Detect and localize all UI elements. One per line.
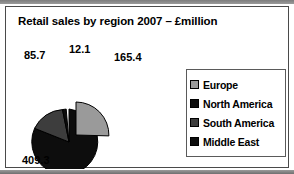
pie-data-label-europe: 165.4 bbox=[114, 51, 142, 63]
legend-item-middle-east[interactable]: Middle East bbox=[190, 132, 285, 151]
legend-swatch-europe bbox=[190, 80, 199, 89]
legend-label-south-america: South America bbox=[203, 117, 274, 129]
legend-label-north-america: North America bbox=[203, 98, 272, 110]
scan-band-top bbox=[0, 0, 294, 4]
chart-title: Retail sales by region 2007 – £million bbox=[18, 15, 217, 27]
legend-swatch-south-america bbox=[190, 118, 199, 127]
legend-item-north-america[interactable]: North America bbox=[190, 94, 285, 113]
legend-swatch-middle-east bbox=[190, 137, 199, 146]
legend-label-middle-east: Middle East bbox=[203, 136, 259, 148]
legend-item-europe[interactable]: Europe bbox=[190, 75, 285, 94]
pie-data-label-south-america: 85.7 bbox=[24, 49, 45, 61]
scan-band-bottom bbox=[0, 170, 294, 174]
legend-swatch-north-america bbox=[190, 99, 199, 108]
pie-data-label-middle-east: 12.1 bbox=[69, 43, 90, 55]
chart-figure: Retail sales by region 2007 – £million 8… bbox=[0, 0, 294, 174]
chart-card: Retail sales by region 2007 – £million 8… bbox=[5, 6, 289, 168]
legend-label-europe: Europe bbox=[203, 79, 238, 91]
pie-slice-europe[interactable] bbox=[76, 102, 109, 136]
chart-legend: Europe North America South America Middl… bbox=[186, 69, 286, 157]
legend-item-south-america[interactable]: South America bbox=[190, 113, 285, 132]
pie-data-label-north-america: 409.3 bbox=[22, 154, 50, 166]
